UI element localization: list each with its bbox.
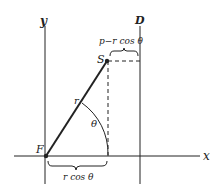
top-brace <box>110 48 138 56</box>
focus-point <box>44 154 48 158</box>
y-axis-label: y <box>39 14 48 28</box>
brace-top-label: p−r cos θ <box>99 36 143 46</box>
angle-label: θ <box>91 118 97 129</box>
focus-label: F <box>35 143 44 156</box>
angle-arc <box>82 103 108 155</box>
polar-conic-diagram: y D x F S r θ p−r cos θ r cos θ <box>0 0 219 191</box>
point-s-label: S <box>97 53 105 66</box>
x-axis-label: x <box>203 149 210 163</box>
point-s <box>105 59 109 63</box>
bottom-brace <box>48 161 107 170</box>
brace-bottom-label: r cos θ <box>63 172 94 182</box>
directrix-label: D <box>134 14 145 27</box>
segment-r <box>46 61 107 156</box>
